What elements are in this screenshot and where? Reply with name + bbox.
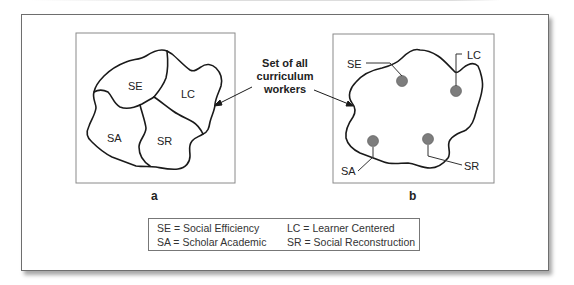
legend-box: SE = Social Efficiency LC = Learner Cent… [148,218,420,251]
leader-lines [358,54,462,171]
dot-lc [451,86,462,97]
region-sa-label: SA [107,132,122,144]
panel-a-box [76,33,235,183]
dot-sa [368,136,379,147]
point-sa-label: SA [341,165,356,177]
panel-b-point-labels: SE LC SA SR [341,49,481,177]
panel-a-region-labels: SE LC SA SR [107,80,195,147]
region-sr-label: SR [157,135,172,147]
point-se-label: SE [347,58,362,70]
center-label: Set of all curriculum workers [244,57,326,96]
panel-a-label: a [151,189,158,203]
panel-a-blob [87,50,221,169]
panel-b-blob [346,49,483,168]
point-lc-label: LC [467,49,481,61]
region-se-label: SE [128,80,143,92]
point-sr-label: SR [464,160,479,172]
dot-sr [423,134,434,145]
legend-item-se: SE = Social Efficiency [157,222,259,234]
center-label-line-2: curriculum [244,70,326,83]
panel-b-dots [368,76,462,147]
legend-item-sa: SA = Scholar Academic [157,236,266,248]
center-label-line-1: Set of all [244,57,326,70]
legend-item-lc: LC = Learner Centered [287,222,395,234]
legend-item-sr: SR = Social Reconstruction [287,236,415,248]
panel-b-label: b [409,189,416,203]
dot-se [397,76,408,87]
center-label-line-3: workers [244,83,326,96]
region-lc-label: LC [181,88,195,100]
